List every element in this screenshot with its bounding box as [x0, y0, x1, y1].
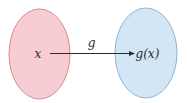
function-name-label: g [88, 36, 96, 50]
function-mapping-diagram: x g g(x) [0, 0, 187, 103]
codomain-element-label: g(x) [136, 47, 160, 61]
domain-element-label: x [35, 47, 42, 61]
